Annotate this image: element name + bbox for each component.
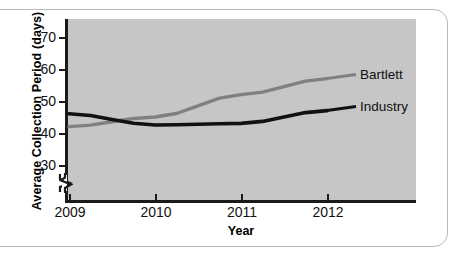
y-axis-tick-30	[59, 165, 66, 167]
y-axis-tick-40	[59, 133, 66, 135]
series-label-bartlett: Bartlett	[360, 67, 403, 82]
x-axis-tick-2009	[69, 194, 71, 201]
x-axis-tick-label-2010: 2010	[126, 204, 186, 220]
y-axis-tick-60	[59, 69, 66, 71]
y-axis-break-glyph	[58, 172, 74, 194]
x-axis-title: Year	[186, 224, 296, 238]
x-axis-tick-label-2012: 2012	[298, 204, 358, 220]
x-axis-tick-label-2011: 2011	[212, 204, 272, 220]
x-axis-tick-2012	[327, 194, 329, 201]
x-axis-tick-label-2009: 2009	[40, 204, 100, 220]
y-axis-title: Average Collection Period (days)	[30, 11, 44, 211]
y-axis-tick-50	[59, 101, 66, 103]
y-axis-tick-70	[59, 37, 66, 39]
x-axis-tick-2011	[241, 194, 243, 201]
series-label-industry: Industry	[360, 99, 408, 114]
x-axis-tick-2010	[155, 194, 157, 201]
